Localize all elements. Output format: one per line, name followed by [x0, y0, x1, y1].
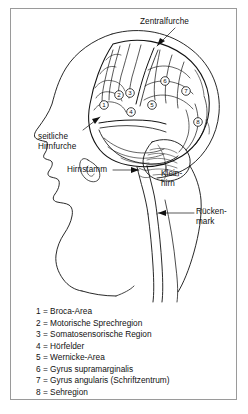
- region-marker-number-2: 2: [117, 91, 121, 98]
- legend-item-separator: =: [41, 306, 50, 316]
- region-markers: 12345678: [100, 77, 203, 127]
- region-marker-number-3: 3: [128, 89, 132, 96]
- label-seitliche-line2: Hirnfurche: [38, 142, 76, 151]
- label-seitliche-line1: seitliche: [38, 132, 68, 141]
- region-marker-number-5: 5: [150, 101, 154, 108]
- neck-front-lower: [82, 291, 116, 296]
- legend-item-separator: =: [41, 352, 50, 362]
- spinal-cord-anterior: [148, 214, 154, 302]
- label-kleinhirn-line2: hirn: [161, 179, 175, 188]
- legend-item: 6 = Gyrus supramarginalis: [36, 364, 226, 376]
- lateral-sulcus-lower: [100, 126, 166, 132]
- legend-item-separator: =: [41, 329, 50, 339]
- region-marker-number-6: 6: [163, 77, 167, 84]
- spinal-cord-posterior: [157, 214, 163, 302]
- neck-shoulder-line: [116, 286, 134, 296]
- legend-item-label: Motorische Sprechregion: [50, 318, 142, 328]
- region-marker-number-4: 4: [129, 108, 133, 115]
- region-marker-number-7: 7: [184, 87, 188, 94]
- lateral-sulcus: [99, 120, 166, 124]
- arrowhead-hirnstamm: [131, 167, 139, 173]
- legend-item: 4 = Hörfelder: [36, 341, 226, 353]
- legend-item-separator: =: [41, 387, 50, 397]
- brainstem-medulla-line: [140, 176, 150, 178]
- legend-item-label: Gyrus angularis (Schriftzentrum): [50, 375, 169, 385]
- gyrus-occipital-3: [179, 110, 189, 152]
- legend: 1 = Broca-Area2 = Motorische Sprechregio…: [36, 306, 226, 398]
- label-zentralfurche: Zentralfurche: [140, 17, 189, 27]
- legend-item: 1 = Broca-Area: [36, 306, 226, 318]
- legend-item-label: Gyrus supramarginalis: [50, 364, 133, 374]
- region-marker-number-1: 1: [102, 101, 106, 108]
- arrowhead-rueckenmark: [158, 210, 166, 216]
- legend-item-separator: =: [41, 318, 50, 328]
- legend-item-label: Sehregion: [50, 387, 88, 397]
- gyrus-temporal-3: [121, 158, 149, 163]
- legend-item-label: Somatosensorische Region: [50, 329, 151, 339]
- brainstem-posterior: [147, 166, 157, 214]
- legend-item-separator: =: [41, 364, 50, 374]
- legend-item-separator: =: [41, 341, 50, 351]
- legend-item: 3 = Somatosensorische Region: [36, 329, 226, 341]
- legend-item-label: Broca-Area: [50, 306, 92, 316]
- label-seitliche-hirnfurche: seitlicheHirnfurche: [38, 132, 76, 151]
- brainstem-anterior: [137, 167, 148, 214]
- legend-item-label: Hörfelder: [50, 341, 84, 351]
- label-rueckenmark: Rücken-mark: [196, 207, 227, 226]
- label-hirnstamm: Hirnstamm: [67, 165, 107, 175]
- legend-item: 5 = Wernicke-Area: [36, 352, 226, 364]
- label-kleinhirn-line1: Klein-: [161, 169, 182, 178]
- legend-item: 8 = Sehregion: [36, 387, 226, 399]
- gyrus-parietal-arc-1: [148, 66, 190, 78]
- region-marker-number-8: 8: [196, 118, 200, 125]
- skull-outline: [112, 31, 219, 178]
- gyrus-frontal-1: [102, 50, 113, 102]
- gyrus-frontal-arc-5: [106, 54, 121, 60]
- brain-anatomy-figure: 12345678 Zentralfurche seitlicheHirnfurc…: [0, 0, 248, 414]
- central-sulcus: [136, 48, 154, 104]
- legend-item: 2 = Motorische Sprechregion: [36, 318, 226, 330]
- vertebral-column-line: [165, 200, 178, 302]
- legend-item-separator: =: [41, 375, 50, 385]
- legend-item: 7 = Gyrus angularis (Schriftzentrum): [36, 375, 226, 387]
- label-kleinhirn: Klein-hirn: [161, 169, 182, 188]
- gyrus-parietal-edge: [195, 70, 204, 95]
- legend-item-label: Wernicke-Area: [50, 352, 105, 362]
- face-profile-outline: [34, 34, 112, 291]
- label-rueckenmark-line2: mark: [196, 217, 214, 226]
- label-rueckenmark-line1: Rücken-: [196, 207, 227, 216]
- gyrus-frontal-arc-2: [94, 102, 126, 112]
